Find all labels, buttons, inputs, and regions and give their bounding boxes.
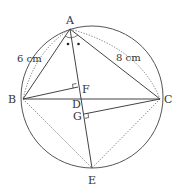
angle-mark-dot-left — [67, 43, 70, 46]
segment-ab — [23, 29, 70, 99]
label-point-c: C — [164, 93, 172, 106]
figure-canvas: A B C D E F G 6 cm 8 cm — [0, 0, 181, 190]
measurement-ac: 8 cm — [116, 52, 141, 63]
label-point-f: F — [82, 83, 90, 96]
angle-mark-dot-right — [77, 43, 80, 46]
label-point-e: E — [88, 174, 96, 187]
geometry-figure: A B C D E F G 6 cm 8 cm — [0, 0, 181, 190]
circumcircle — [21, 26, 163, 168]
label-point-a: A — [65, 14, 75, 27]
label-point-g: G — [73, 110, 82, 123]
segment-bf — [23, 87, 78, 99]
measurement-ab: 6 cm — [17, 53, 42, 64]
segment-cg — [84, 99, 160, 114]
dotted-segment-ce — [92, 99, 160, 168]
label-point-b: B — [8, 93, 16, 106]
